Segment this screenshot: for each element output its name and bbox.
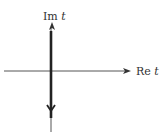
imaginary-axis-label-var: t bbox=[61, 10, 65, 23]
imaginary-axis-arrow-icon bbox=[49, 22, 55, 30]
real-axis-label-var: t bbox=[154, 65, 158, 78]
imaginary-axis-label: Im t bbox=[43, 11, 66, 22]
real-axis-label-prefix: Re bbox=[136, 65, 151, 78]
imaginary-axis-label-prefix: Im bbox=[43, 10, 58, 23]
real-axis-label: Re t bbox=[136, 66, 159, 77]
